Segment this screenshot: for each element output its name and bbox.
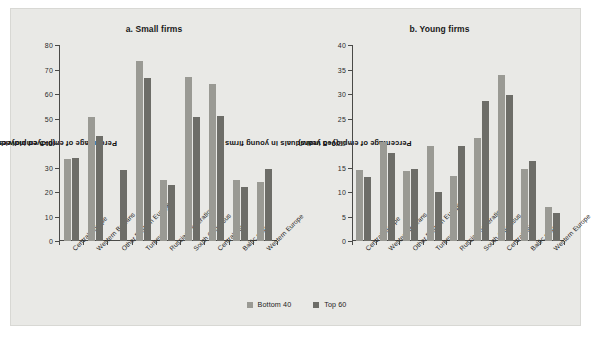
y-tick-label-b-10: 10 — [338, 189, 346, 196]
bar — [257, 182, 264, 241]
bar — [356, 170, 363, 241]
bar-group — [517, 45, 541, 241]
figure-container: a. Small firms Percentage of employed in… — [10, 8, 581, 326]
bar — [545, 207, 552, 241]
bar — [64, 159, 71, 241]
bar-group — [352, 45, 376, 241]
x-tick — [277, 241, 278, 245]
bar — [498, 75, 505, 241]
bar — [233, 180, 240, 241]
bar-group — [470, 45, 494, 241]
bar-group — [83, 45, 107, 241]
y-axis-label-b: Percentage of employed individuals in yo… — [310, 45, 326, 241]
bar-group — [107, 45, 131, 241]
bar-group — [540, 45, 564, 241]
y-tick-label-b-40: 40 — [338, 42, 346, 49]
chart-title-b: b. Young firms — [297, 24, 582, 34]
bar — [474, 138, 481, 241]
x-tick — [156, 241, 157, 245]
bar-group — [59, 45, 83, 241]
x-tick — [107, 241, 108, 245]
bar — [506, 95, 513, 241]
x-tick — [83, 241, 84, 245]
x-tick — [470, 241, 471, 245]
bar-group — [156, 45, 180, 241]
bar-group — [132, 45, 156, 241]
bar — [72, 158, 79, 241]
bar — [364, 177, 371, 241]
x-tick — [376, 241, 377, 245]
y-tick-label-a-0: 0 — [49, 238, 53, 245]
bar — [209, 84, 216, 241]
plot-area-b: 0510152025303540Central EuropeWestern Ba… — [352, 45, 564, 241]
chart-title-a: a. Small firms — [11, 24, 297, 34]
y-tick-label-b-25: 25 — [338, 115, 346, 122]
bar — [482, 101, 489, 241]
bar — [403, 171, 410, 241]
x-tick — [253, 241, 254, 245]
y-tick-label-a-60: 60 — [45, 91, 53, 98]
bar — [193, 117, 200, 241]
bar — [217, 116, 224, 241]
y-tick-label-a-20: 20 — [45, 189, 53, 196]
bar-group — [180, 45, 204, 241]
y-tick-label-a-40: 40 — [45, 140, 53, 147]
bar — [435, 192, 442, 241]
bar-group — [446, 45, 470, 241]
y-tick-label-b-35: 35 — [338, 66, 346, 73]
bar — [388, 153, 395, 241]
bar — [96, 136, 103, 241]
y-tick-label-a-80: 80 — [45, 42, 53, 49]
x-tick — [132, 241, 133, 245]
bar-group — [493, 45, 517, 241]
x-tick — [229, 241, 230, 245]
bar — [160, 180, 167, 241]
x-tick — [204, 241, 205, 245]
x-tick — [540, 241, 541, 245]
y-axis-label-b-line2: (0–5 years) — [298, 138, 338, 148]
x-tick — [564, 241, 565, 245]
y-tick-label-b-20: 20 — [338, 140, 346, 147]
chart-panel-young-firms: b. Young firms Percentage of employed in… — [297, 9, 582, 327]
bar — [88, 117, 95, 241]
y-tick-label-b-15: 15 — [338, 164, 346, 171]
x-tick — [446, 241, 447, 245]
bar-group — [376, 45, 400, 241]
bar — [185, 77, 192, 241]
y-tick-label-a-70: 70 — [45, 66, 53, 73]
bar — [450, 176, 457, 241]
bar — [120, 170, 127, 241]
x-tick — [59, 241, 60, 245]
y-tick-label-b-30: 30 — [338, 91, 346, 98]
y-tick-label-b-5: 5 — [342, 213, 346, 220]
x-tick — [493, 241, 494, 245]
y-tick-label-a-30: 30 — [45, 164, 53, 171]
y-tick-label-a-50: 50 — [45, 115, 53, 122]
x-tick — [423, 241, 424, 245]
bar-group — [423, 45, 447, 241]
bar — [136, 61, 143, 241]
x-tick — [517, 241, 518, 245]
y-tick-label-b-0: 0 — [342, 238, 346, 245]
bar — [427, 146, 434, 241]
bar — [529, 161, 536, 241]
x-tick — [180, 241, 181, 245]
chart-panel-small-firms: a. Small firms Percentage of employed in… — [11, 9, 297, 327]
bar — [458, 146, 465, 241]
bar — [144, 78, 151, 241]
bar — [553, 213, 560, 241]
bar-group — [399, 45, 423, 241]
bar — [521, 169, 528, 241]
x-tick — [399, 241, 400, 245]
bar — [380, 142, 387, 241]
bar — [265, 169, 272, 241]
bar — [241, 187, 248, 241]
y-axis-label-a: Percentage of employed individuals in sm… — [17, 45, 33, 241]
y-tick-label-a-10: 10 — [45, 213, 53, 220]
x-tick — [352, 241, 353, 245]
bar — [168, 185, 175, 241]
bar — [411, 169, 418, 241]
